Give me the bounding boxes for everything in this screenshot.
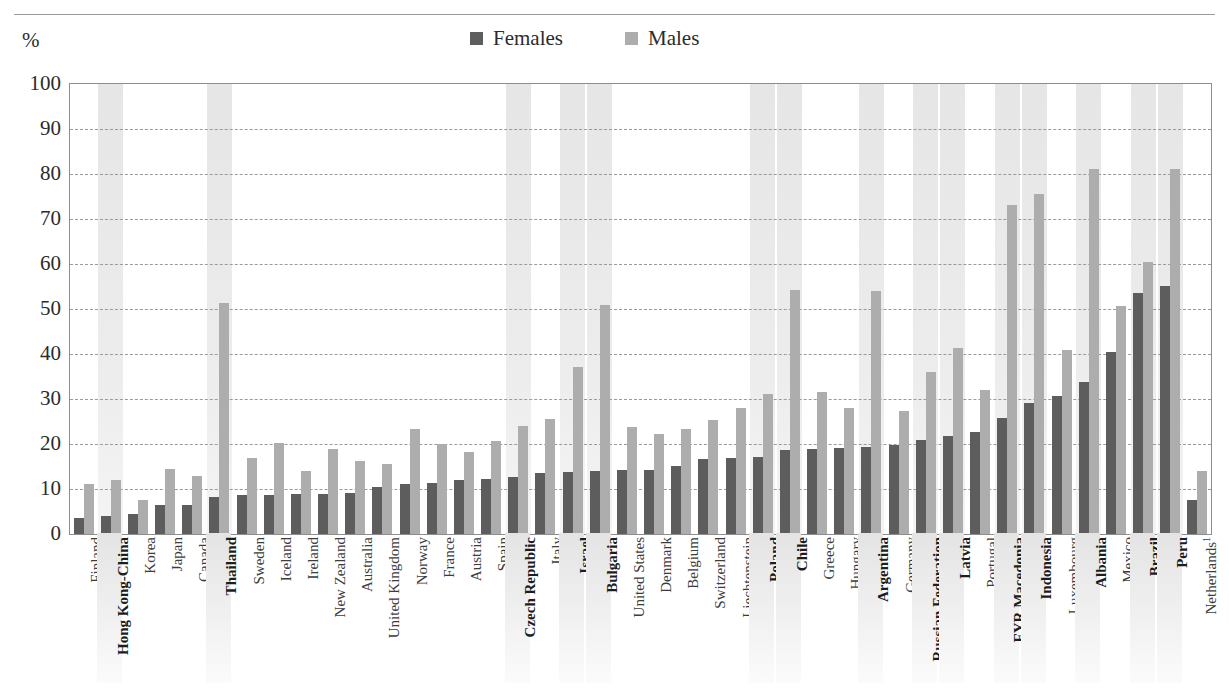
bar-females xyxy=(1187,500,1197,534)
bar-group xyxy=(233,84,260,534)
x-axis-label: Thailand xyxy=(224,537,239,595)
bar-males xyxy=(274,443,284,534)
bar-males xyxy=(1089,169,1099,534)
plot-area xyxy=(69,83,1212,535)
x-axis-label: Denmark xyxy=(659,537,674,593)
bar-males xyxy=(1197,471,1207,534)
bar-females xyxy=(291,494,301,534)
y-tick-100: 100 xyxy=(30,71,62,96)
bar-males xyxy=(382,464,392,534)
bar-males xyxy=(1007,205,1017,534)
legend-label-females: Females xyxy=(493,28,563,49)
bar-females xyxy=(101,516,111,534)
bar-males xyxy=(410,429,420,534)
bar-females xyxy=(916,440,926,535)
bar-group xyxy=(559,84,586,534)
bar-females xyxy=(182,505,192,534)
x-axis-label: Ireland xyxy=(306,537,321,579)
bar-males xyxy=(328,449,338,534)
bar-group xyxy=(722,84,749,534)
bar-females xyxy=(1079,382,1089,534)
bar-females xyxy=(726,458,736,534)
bar-group xyxy=(70,84,97,534)
bar-group xyxy=(1157,84,1184,534)
top-divider xyxy=(14,14,1215,15)
bar-females xyxy=(74,518,84,534)
legend-swatch-males-icon xyxy=(625,32,638,45)
bar-group xyxy=(206,84,233,534)
bar-group xyxy=(478,84,505,534)
bar-males xyxy=(1170,169,1180,534)
bar-females xyxy=(943,436,953,534)
bar-males xyxy=(573,367,583,534)
x-axis-label: Korea xyxy=(143,537,158,574)
y-tick-0: 0 xyxy=(51,521,62,546)
bar-group xyxy=(994,84,1021,534)
x-axis-label: Greece xyxy=(822,537,837,579)
x-axis-label: Netherlands1 xyxy=(1202,537,1219,614)
bar-males xyxy=(654,434,664,534)
bar-females xyxy=(128,514,138,534)
plot-wrapper: 1009080706050403020100 xyxy=(17,76,1212,538)
bar-males xyxy=(545,419,555,534)
x-axis-label: Austria xyxy=(469,537,484,581)
bar-group xyxy=(641,84,668,534)
bar-group xyxy=(858,84,885,534)
bar-males xyxy=(871,291,881,534)
bar-group xyxy=(749,84,776,534)
x-axis-label: Bulgaria xyxy=(605,537,620,593)
bar-group xyxy=(152,84,179,534)
bar-males xyxy=(192,476,202,534)
y-tick-70: 70 xyxy=(40,206,61,231)
bar-females xyxy=(1052,396,1062,534)
bar-males xyxy=(844,408,854,534)
bar-females xyxy=(1024,403,1034,534)
bar-males xyxy=(219,303,229,534)
bar-females xyxy=(454,480,464,534)
bar-males xyxy=(301,471,311,534)
y-tick-10: 10 xyxy=(40,476,61,501)
x-axis-label: Japan xyxy=(170,537,185,571)
x-axis-label: Belgium xyxy=(686,537,701,589)
bar-females xyxy=(671,466,681,534)
x-axis-label: United States xyxy=(632,537,647,617)
bar-females xyxy=(535,473,545,534)
bar-group xyxy=(967,84,994,534)
bar-group xyxy=(1130,84,1157,534)
bar-group xyxy=(124,84,151,534)
bar-males xyxy=(790,290,800,534)
x-axis-label: United Kingdom xyxy=(387,537,402,638)
legend-item-females: Females xyxy=(470,28,563,49)
bar-series-container xyxy=(70,84,1211,534)
bar-group xyxy=(1184,84,1211,534)
bar-females xyxy=(372,487,382,534)
bar-group xyxy=(1021,84,1048,534)
bar-females xyxy=(753,457,763,534)
x-axis-category-labels: FinlandHong Kong-ChinaKoreaJapanCanadaTh… xyxy=(69,533,1210,693)
bar-group xyxy=(695,84,722,534)
x-axis-label: Hong Kong-China xyxy=(116,537,131,655)
bar-females xyxy=(698,459,708,534)
x-axis-label: Latvia xyxy=(958,537,973,579)
bar-females xyxy=(780,450,790,534)
bar-males xyxy=(464,452,474,534)
bar-group xyxy=(912,84,939,534)
bar-males xyxy=(926,372,936,534)
bar-females xyxy=(970,432,980,534)
x-axis-label: Czech Republic xyxy=(523,537,538,637)
bar-group xyxy=(260,84,287,534)
bar-males xyxy=(84,484,94,534)
bar-females xyxy=(834,448,844,534)
x-axis-label: Indonesia xyxy=(1039,537,1054,600)
bar-group xyxy=(1102,84,1129,534)
y-tick-90: 90 xyxy=(40,116,61,141)
bar-females xyxy=(1133,293,1143,534)
bar-females xyxy=(807,449,817,534)
bar-females xyxy=(264,495,274,534)
x-axis-label: Argentina xyxy=(876,537,891,602)
bar-males xyxy=(437,444,447,534)
x-axis-label: Switzerland xyxy=(713,537,728,609)
bar-group xyxy=(586,84,613,534)
bar-group xyxy=(831,84,858,534)
bar-females xyxy=(345,493,355,534)
